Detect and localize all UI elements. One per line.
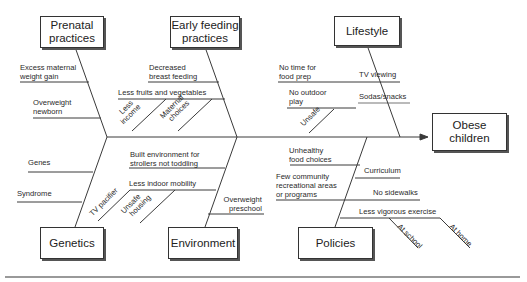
bone-early-feeding [205,47,237,137]
category-box-genetics: Genetics [40,227,104,259]
box-label: practices [49,32,95,45]
category-box-early-feeding: Early feedingpractices [170,16,240,48]
bone-prenatal [75,47,107,137]
cause-no-sidewalks: No sidewalks [373,188,418,197]
box-label: Lifestyle [346,25,388,38]
cause-decreased-breast-feeding: Decreasedbreast feeding [149,63,197,81]
category-box-prenatal: Prenatalpractices [40,16,104,48]
box-label: Early feeding [171,19,238,32]
cause-curriculum: Curriculum [364,166,401,175]
cause-overweight-preschool: Overweightpreschool [223,195,262,213]
effect-box: Obese children [432,113,507,151]
cause-unhealthy-food-choices: Unhealthyfood choices [289,146,332,164]
cause-less-fruits-vegetables: Less fruits and vegetables [118,88,206,97]
cause-few-community-areas: Few communityrecreational areasor progra… [276,172,337,199]
box-label: Genetics [49,237,94,250]
spine-arrow-icon [420,134,428,140]
cause-genes: Genes [28,158,50,167]
box-label: Prenatal [49,19,95,32]
category-box-lifestyle: Lifestyle [334,16,400,46]
category-box-environment: Environment [168,227,238,259]
box-label: practices [171,32,238,45]
cause-overweight-newborn: Overweightnewborn [33,98,71,116]
cause-tv-viewing: TV viewing [359,70,396,79]
cause-less-vigorous-exercise: Less vigorous exercise [359,207,436,216]
cause-no-outdoor-play: No outdoorplay [289,88,327,106]
cause-built-environment: Built environment forstrollers not toddl… [130,150,200,168]
cause-no-time-food-prep: No time forfood prep [279,63,316,81]
effect-label: Obese children [447,119,493,145]
cause-sodas-snacks: Sodas/snacks [359,92,406,101]
category-box-policies: Policies [298,227,373,259]
cause-syndrome: Syndrome [17,189,52,198]
cause-less-indoor-mobility: Less indoor mobility [129,179,196,188]
bone-lifestyle [367,45,400,137]
box-label: Policies [316,237,356,250]
cause-excess-maternal-weight-gain: Excess maternalweight gain [20,63,76,81]
box-label: Environment [171,237,236,250]
